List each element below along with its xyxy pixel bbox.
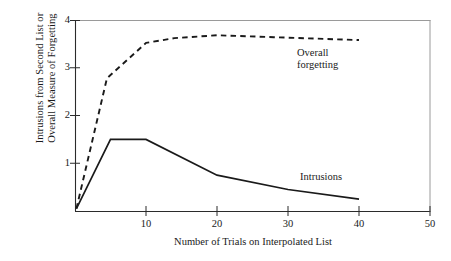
y-tick-label-4: 4 bbox=[52, 14, 70, 25]
x-axis-label: Number of Trials on Interpolated List bbox=[75, 236, 431, 247]
x-tick-label-40: 40 bbox=[346, 218, 372, 229]
y-tick-label-1: 1 bbox=[52, 157, 70, 168]
chart-figure: Intrusions from Second List or Overall M… bbox=[0, 0, 451, 261]
annotation-overall-forgetting-line-1: Overall bbox=[297, 47, 338, 59]
x-tick-label-10: 10 bbox=[133, 218, 159, 229]
y-tick-label-2: 2 bbox=[52, 109, 70, 120]
x-tick-label-20: 20 bbox=[204, 218, 230, 229]
x-tick-label-50: 50 bbox=[417, 218, 443, 229]
annotation-intrusions-line-1: Intrusions bbox=[300, 171, 342, 183]
annotation-overall-forgetting-line-2: forgetting bbox=[297, 59, 338, 71]
annotation-intrusions: Intrusions bbox=[300, 171, 342, 183]
annotation-overall-forgetting: Overall forgetting bbox=[297, 47, 338, 71]
x-tick-label-30: 30 bbox=[275, 218, 301, 229]
y-tick-label-3: 3 bbox=[52, 61, 70, 72]
